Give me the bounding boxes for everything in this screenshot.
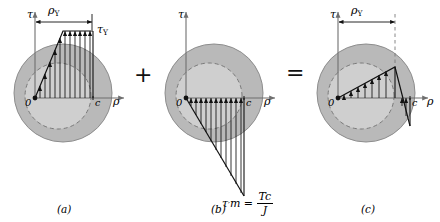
rho-axis-label-c: ρ [427, 96, 433, 107]
origin-label-b: 0 [176, 98, 182, 108]
radius-label-a: c [95, 98, 100, 108]
origin-dot-c [336, 96, 341, 101]
tau-y-peak-label-a: τY [97, 24, 108, 37]
caption-a: (a) [57, 203, 71, 215]
torsion-diagram-svg [0, 0, 440, 222]
panel-c [317, 12, 428, 142]
origin-dot-b [184, 96, 189, 101]
figure-canvas: τ ρY τY 0 c ρ (a) + τ 0 c ρ τ′m = Tc J (… [0, 0, 440, 222]
origin-dot-a [33, 96, 38, 101]
tau-axis-label-c: τ [330, 9, 336, 20]
rho-y-label-a: ρY [48, 5, 59, 18]
radius-label-c: c [412, 98, 417, 108]
origin-label-c: 0 [328, 98, 334, 108]
rho-y-label-c: ρY [351, 5, 362, 18]
caption-c: (c) [361, 203, 375, 215]
origin-label-a: 0 [25, 98, 31, 108]
equals-operator: = [286, 60, 304, 85]
caption-b: (b) [211, 203, 226, 215]
tau-axis-label-a: τ [27, 9, 33, 20]
rho-axis-label-b: ρ [264, 96, 270, 107]
radius-label-b: c [246, 98, 251, 108]
plus-operator: + [134, 62, 152, 87]
tau-axis-label-b: τ [178, 9, 184, 20]
rho-axis-label-a: ρ [113, 96, 119, 107]
tau-prime-m-formula-b: τ′m = Tc J [222, 190, 273, 217]
